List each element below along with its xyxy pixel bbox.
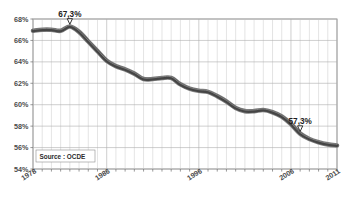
plot-area-background	[33, 19, 337, 169]
y-axis-tick-label: 64%	[14, 57, 29, 66]
screenshot-root: 68%66%64%62%60%58%56%54% 197819861996200…	[0, 0, 348, 201]
y-axis-tick-label: 58%	[14, 122, 29, 131]
data-point-annotation-label: 67,3%	[58, 10, 82, 19]
y-axis-tick-label: 66%	[14, 36, 29, 45]
y-axis-tick-label: 56%	[14, 143, 29, 152]
data-point-annotation-label: 57,3%	[289, 117, 313, 126]
source-note-label: Source : OCDE	[40, 153, 87, 160]
y-axis-tick-label: 60%	[14, 100, 29, 109]
y-axis-tick-label: 68%	[14, 15, 29, 24]
y-axis-tick-label: 62%	[14, 79, 29, 88]
y-axis-tick-labels: 68%66%64%62%60%58%56%54%	[14, 15, 29, 174]
source-note-group: Source : OCDE	[36, 150, 95, 162]
line-chart-figure: 68%66%64%62%60%58%56%54% 197819861996200…	[0, 0, 348, 201]
chart-canvas: 68%66%64%62%60%58%56%54% 197819861996200…	[0, 0, 348, 201]
